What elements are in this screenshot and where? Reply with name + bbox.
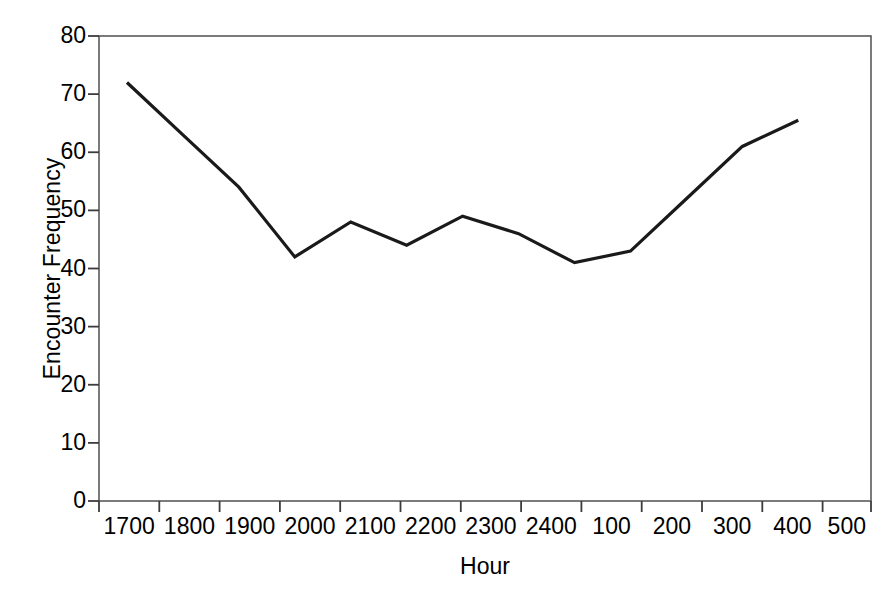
chart-figure: Encounter Frequency 0 10 20 30 40 50 60 … (0, 0, 895, 594)
x-axis-tick-labels: 1700 1800 1900 2000 2100 2200 2300 2400 … (0, 513, 895, 543)
plot-area (0, 0, 895, 594)
y-axis-ticks (88, 36, 99, 501)
x-axis-title: Hour (99, 553, 871, 580)
x-axis-ticks (99, 501, 871, 512)
plot-frame (99, 36, 871, 501)
x-tick-label: 500 (807, 513, 887, 539)
data-series-line (127, 83, 798, 263)
